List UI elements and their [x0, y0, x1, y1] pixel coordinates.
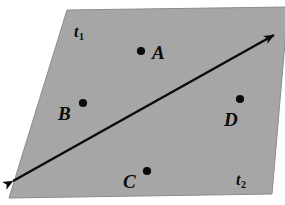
point-dot-c: [143, 167, 151, 175]
point-label-c: C: [123, 172, 136, 191]
point-label-a: A: [152, 43, 165, 62]
region-label-t1-base: t: [74, 23, 78, 40]
point-label-b: B: [58, 104, 71, 123]
region-label-t1: t1: [74, 24, 83, 40]
point-label-d: D: [224, 110, 238, 129]
region-label-t2: t2: [236, 172, 245, 188]
point-dot-b: [79, 99, 87, 107]
region-label-t1-sub: 1: [79, 31, 84, 42]
geometry-figure: t1 t2 A B C D: [0, 0, 285, 205]
region-label-t2-base: t: [236, 171, 240, 188]
point-dot-a: [137, 47, 145, 55]
point-dot-d: [236, 95, 244, 103]
region-label-t2-sub: 2: [241, 179, 246, 190]
